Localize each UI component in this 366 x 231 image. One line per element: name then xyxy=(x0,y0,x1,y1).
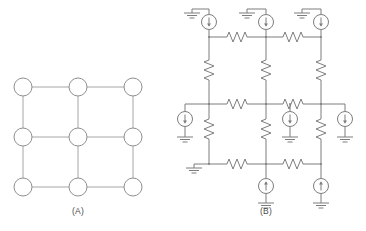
resistor xyxy=(280,99,306,109)
current-source xyxy=(202,15,217,30)
panel-a: (A) xyxy=(14,78,142,216)
mid-source-group-right xyxy=(337,104,353,142)
node-dot xyxy=(320,103,322,105)
resistor xyxy=(280,32,306,42)
ground-icon xyxy=(184,9,200,18)
panel-b: (B) xyxy=(177,9,353,216)
node-circle xyxy=(14,78,32,96)
node-circle xyxy=(14,178,32,196)
current-source xyxy=(314,15,329,30)
node-circle xyxy=(69,128,87,146)
current-source xyxy=(338,112,353,127)
current-source xyxy=(259,15,274,30)
panel-b-horizontal-resistors xyxy=(224,32,306,169)
panel-a-caption: (A) xyxy=(72,206,84,216)
bottom-ground-group-1 xyxy=(186,164,202,173)
current-source xyxy=(314,179,329,194)
resistor xyxy=(280,159,306,169)
node-circle xyxy=(124,178,142,196)
node-dot xyxy=(265,36,267,38)
node-circle xyxy=(14,128,32,146)
resistor xyxy=(224,32,250,42)
bottom-source-group-3 xyxy=(313,164,329,208)
node-dot xyxy=(208,36,210,38)
node-circle xyxy=(124,128,142,146)
node-dot xyxy=(320,163,322,165)
ground-icon xyxy=(282,133,298,142)
node-dot xyxy=(320,36,322,38)
panel-b-vertical-resistors xyxy=(204,57,326,142)
resistor xyxy=(316,116,326,142)
panel-b-col-wires xyxy=(209,37,321,164)
node-circle xyxy=(69,78,87,96)
ground-icon xyxy=(337,133,353,142)
resistor xyxy=(224,159,250,169)
ground-icon xyxy=(177,133,193,142)
ground-icon xyxy=(239,9,255,18)
bottom-source-group-2 xyxy=(258,164,274,208)
ground-icon xyxy=(313,199,329,208)
ground-icon xyxy=(186,164,202,173)
resistor xyxy=(316,57,326,83)
node-dot xyxy=(265,103,267,105)
figure-svg: (A) xyxy=(0,0,366,231)
current-source xyxy=(283,112,298,127)
resistor xyxy=(261,57,271,83)
node-dot xyxy=(289,103,291,105)
figure-container: (A) xyxy=(0,0,366,231)
node-dot xyxy=(208,163,210,165)
ground-icon xyxy=(294,9,310,18)
current-source xyxy=(178,112,193,127)
resistor xyxy=(224,99,250,109)
resistor xyxy=(204,57,214,83)
current-source xyxy=(259,179,274,194)
node-dot xyxy=(265,163,267,165)
top-source-group-3 xyxy=(294,9,329,37)
top-source-group-1 xyxy=(184,9,217,37)
mid-source-group-center xyxy=(282,104,298,142)
resistor xyxy=(261,116,271,142)
node-dot xyxy=(208,103,210,105)
mid-source-group-left xyxy=(177,104,193,142)
panel-b-junctions xyxy=(208,36,322,165)
panel-b-caption: (B) xyxy=(260,206,272,216)
node-circle xyxy=(69,178,87,196)
resistor xyxy=(204,116,214,142)
node-circle xyxy=(124,78,142,96)
